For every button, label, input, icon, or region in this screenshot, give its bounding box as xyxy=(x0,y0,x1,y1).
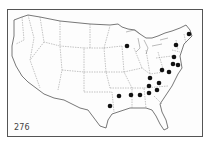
us-outline xyxy=(12,15,192,130)
point-marker xyxy=(138,93,143,98)
point-marker xyxy=(176,63,181,68)
point-marker xyxy=(157,81,162,86)
point-marker xyxy=(129,93,134,98)
point-marker xyxy=(174,43,179,48)
point-marker xyxy=(187,32,192,37)
point-marker xyxy=(171,62,176,67)
point-marker xyxy=(172,55,177,60)
us-map xyxy=(0,0,209,142)
point-marker xyxy=(125,44,130,49)
point-marker xyxy=(148,76,153,81)
point-marker xyxy=(117,94,122,99)
point-marker xyxy=(167,70,172,75)
point-marker xyxy=(160,68,165,73)
map-number-label: 276 xyxy=(14,123,30,132)
point-marker xyxy=(108,104,113,109)
point-marker xyxy=(147,91,152,96)
point-marker xyxy=(155,88,160,93)
point-marker xyxy=(147,84,152,89)
